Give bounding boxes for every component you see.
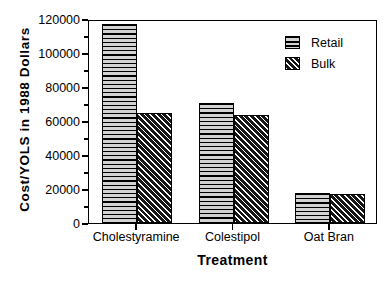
x-category-label: Colestipol: [205, 230, 260, 244]
y-tick-label: 60000: [0, 116, 80, 129]
bar-bulk-colestipol: [234, 115, 269, 223]
x-category-label: Oat Bran: [304, 230, 354, 244]
bar-retail-colestipol: [199, 103, 234, 223]
chart-legend: RetailBulk: [285, 33, 371, 75]
y-tick-label: 100000: [0, 48, 80, 61]
legend-label: Retail: [311, 36, 343, 50]
y-tick-label: 40000: [0, 150, 80, 163]
legend-swatch-retail: [285, 36, 300, 49]
bar-bulk-cholestyramine: [137, 113, 172, 223]
y-tick-label: 20000: [0, 184, 80, 197]
y-tick-label: 80000: [0, 82, 80, 95]
y-axis-tick-labels: 020000400006000080000100000120000: [0, 0, 80, 281]
y-tick-label: 0: [0, 218, 80, 231]
x-category-label: Cholestyramine: [93, 230, 180, 244]
y-tick-label: 120000: [0, 14, 80, 27]
legend-swatch-bulk: [285, 57, 300, 70]
bar-retail-cholestyramine: [102, 24, 137, 223]
bar-chart-figure: Cost/YOLS in 1988 Dollars 02000040000600…: [0, 0, 390, 281]
legend-item-bulk: Bulk: [285, 54, 371, 73]
x-axis-title: Treatment: [88, 252, 377, 268]
legend-item-retail: Retail: [285, 33, 371, 52]
bar-retail-oat-bran: [295, 193, 330, 223]
legend-label: Bulk: [311, 57, 335, 71]
bar-bulk-oat-bran: [330, 194, 365, 223]
